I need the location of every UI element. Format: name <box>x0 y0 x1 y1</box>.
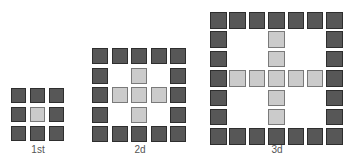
dark-square <box>268 12 285 29</box>
dark-square <box>249 12 266 29</box>
dark-square <box>170 68 186 84</box>
dark-square <box>326 90 343 107</box>
light-square <box>112 87 128 103</box>
figure-label-3d: 3d <box>247 144 307 155</box>
empty <box>229 90 246 107</box>
empty <box>288 109 305 126</box>
empty <box>151 68 167 84</box>
light-square <box>268 109 285 126</box>
dark-square <box>326 70 343 87</box>
dark-square <box>326 31 343 48</box>
dark-square <box>49 107 64 122</box>
dark-square <box>151 126 167 142</box>
dark-square <box>151 48 167 64</box>
figure-label-1st: 1st <box>8 144 68 155</box>
dark-square <box>170 87 186 103</box>
empty <box>229 109 246 126</box>
empty <box>288 90 305 107</box>
light-square <box>268 90 285 107</box>
dark-square <box>210 51 227 68</box>
figure-label-2d: 2d <box>110 144 170 155</box>
empty <box>307 51 324 68</box>
empty <box>288 51 305 68</box>
dark-square <box>307 128 324 145</box>
dark-square <box>210 70 227 87</box>
dark-square <box>210 128 227 145</box>
dark-square <box>326 12 343 29</box>
dark-square <box>92 107 108 123</box>
empty <box>249 51 266 68</box>
dark-square <box>131 126 147 142</box>
dark-square <box>326 109 343 126</box>
dark-square <box>210 109 227 126</box>
empty <box>307 31 324 48</box>
light-square <box>268 31 285 48</box>
dark-square <box>326 51 343 68</box>
dark-square <box>288 128 305 145</box>
empty <box>307 109 324 126</box>
empty <box>112 68 128 84</box>
grid-2d <box>92 48 186 142</box>
dark-square <box>307 12 324 29</box>
empty <box>249 90 266 107</box>
dark-square <box>92 48 108 64</box>
light-square <box>131 68 147 84</box>
grid-3d <box>210 12 343 145</box>
empty <box>229 51 246 68</box>
dark-square <box>11 126 26 141</box>
light-square <box>30 107 45 122</box>
light-square <box>268 51 285 68</box>
dark-square <box>11 88 26 103</box>
dark-square <box>92 87 108 103</box>
dark-square <box>92 126 108 142</box>
empty <box>151 107 167 123</box>
light-square <box>249 70 266 87</box>
light-square <box>151 87 167 103</box>
light-square <box>131 107 147 123</box>
empty <box>229 31 246 48</box>
dark-square <box>30 88 45 103</box>
dark-square <box>170 48 186 64</box>
dark-square <box>229 12 246 29</box>
light-square <box>307 70 324 87</box>
dark-square <box>210 90 227 107</box>
grid-1st <box>11 88 64 141</box>
dark-square <box>112 48 128 64</box>
empty <box>307 90 324 107</box>
dark-square <box>92 68 108 84</box>
dark-square <box>49 126 64 141</box>
dark-square <box>268 128 285 145</box>
empty <box>249 109 266 126</box>
empty <box>112 107 128 123</box>
dark-square <box>49 88 64 103</box>
light-square <box>288 70 305 87</box>
light-square <box>131 87 147 103</box>
dark-square <box>170 107 186 123</box>
dark-square <box>229 128 246 145</box>
dark-square <box>30 126 45 141</box>
dark-square <box>210 31 227 48</box>
dark-square <box>249 128 266 145</box>
dark-square <box>170 126 186 142</box>
dark-square <box>11 107 26 122</box>
light-square <box>229 70 246 87</box>
dark-square <box>131 48 147 64</box>
dark-square <box>112 126 128 142</box>
dark-square <box>288 12 305 29</box>
dark-square <box>326 128 343 145</box>
dark-square <box>210 12 227 29</box>
empty <box>288 31 305 48</box>
empty <box>249 31 266 48</box>
light-square <box>268 70 285 87</box>
